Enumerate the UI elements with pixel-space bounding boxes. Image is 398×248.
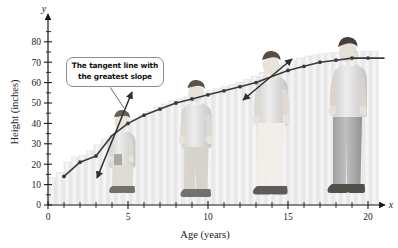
chart-canvas: 0 10 20 30 40 50 60 70 80 <box>0 0 398 248</box>
y-tick-60: 60 <box>32 78 42 88</box>
x-axis-variable: x <box>388 199 394 210</box>
y-axis-variable: y <box>41 3 47 14</box>
y-tick-10: 10 <box>32 180 42 190</box>
growth-chart-figure: 0 10 20 30 40 50 60 70 80 <box>0 0 398 248</box>
x-tick-20: 20 <box>363 212 373 222</box>
x-tick-10: 10 <box>203 212 213 222</box>
x-axis-title: Age (years) <box>180 229 230 241</box>
tangent-callout: The tangent line with the greatest slope <box>66 57 164 87</box>
y-tick-80: 80 <box>32 37 42 47</box>
x-tick-15: 15 <box>283 212 293 222</box>
callout-leader-line <box>108 84 124 108</box>
callout-line-1: The tangent line with <box>71 61 159 72</box>
y-tick-50: 50 <box>32 98 42 108</box>
y-tick-70: 70 <box>32 58 42 68</box>
x-tick-0: 0 <box>46 212 51 222</box>
x-tick-5: 5 <box>126 212 131 222</box>
y-axis-title: Height (inches) <box>9 79 21 145</box>
callout-line-2: the greatest slope <box>71 72 159 83</box>
y-tick-40: 40 <box>32 119 42 129</box>
y-tick-20: 20 <box>32 160 42 170</box>
y-tick-30: 30 <box>32 139 42 149</box>
y-tick-0: 0 <box>36 200 41 210</box>
